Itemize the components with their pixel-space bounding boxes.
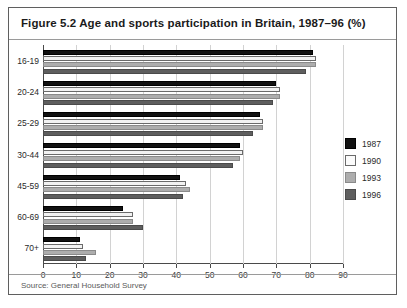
y-tick-label: 25-29 [17, 118, 39, 128]
bar [43, 187, 190, 192]
bar [43, 225, 143, 230]
y-tick-label: 60-69 [17, 212, 39, 222]
x-tick [243, 264, 244, 268]
legend-item[interactable]: 1990 [345, 153, 397, 168]
bar [43, 125, 263, 130]
figure-container: Figure 5.2 Age and sports participation … [8, 7, 397, 295]
x-tick-label: 60 [238, 270, 247, 280]
y-tick-label: 16-19 [17, 56, 39, 66]
x-tick-label: 80 [305, 270, 314, 280]
x-tick-label: 20 [105, 270, 114, 280]
legend-swatch-icon [345, 172, 356, 183]
bar [43, 112, 260, 117]
bar [43, 250, 96, 255]
plot-area: 0102030405060708090 [43, 45, 343, 264]
x-tick [76, 264, 77, 268]
gridline [276, 45, 277, 264]
bar [43, 194, 183, 199]
bar [43, 87, 280, 92]
legend-label: 1987 [362, 139, 381, 149]
bar [43, 50, 313, 55]
x-tick [43, 264, 44, 268]
bar [43, 62, 316, 67]
legend-item[interactable]: 1996 [345, 187, 397, 202]
y-axis-labels: 16-1920-2425-2930-4445-5960-6970+ [9, 45, 39, 264]
legend-label: 1990 [362, 156, 381, 166]
x-tick [276, 264, 277, 268]
gridline [343, 45, 344, 264]
bar [43, 163, 233, 168]
x-tick-label: 10 [72, 270, 81, 280]
x-tick-label: 30 [138, 270, 147, 280]
chart-legend: 1987199019931996 [345, 136, 397, 204]
bar [43, 143, 240, 148]
x-tick-label: 70 [272, 270, 281, 280]
legend-item[interactable]: 1993 [345, 170, 397, 185]
source-note: Source: General Household Survey [21, 281, 147, 290]
legend-swatch-icon [345, 189, 356, 200]
x-tick-label: 40 [172, 270, 181, 280]
legend-label: 1993 [362, 173, 381, 183]
legend-item[interactable]: 1987 [345, 136, 397, 151]
bar [43, 206, 123, 211]
legend-swatch-icon [345, 138, 356, 149]
bar [43, 131, 253, 136]
bar [43, 256, 86, 261]
gridline [243, 45, 244, 264]
bar [43, 81, 276, 86]
gridline [310, 45, 311, 264]
x-tick-label: 0 [41, 270, 46, 280]
bar [43, 237, 80, 242]
source-divider [9, 274, 396, 275]
bar [43, 181, 186, 186]
bar [43, 94, 280, 99]
x-tick [110, 264, 111, 268]
legend-swatch-icon [345, 155, 356, 166]
y-tick-label: 20-24 [17, 87, 39, 97]
bar [43, 69, 306, 74]
y-tick-label: 45-59 [17, 181, 39, 191]
figure-title: Figure 5.2 Age and sports participation … [21, 17, 366, 29]
bar [43, 150, 243, 155]
x-tick [343, 264, 344, 268]
x-tick-label: 50 [205, 270, 214, 280]
x-tick [143, 264, 144, 268]
y-tick-label: 70+ [25, 243, 39, 253]
legend-label: 1996 [362, 190, 381, 200]
bar [43, 119, 263, 124]
x-tick [310, 264, 311, 268]
bar [43, 100, 273, 105]
bar [43, 219, 133, 224]
bar [43, 212, 133, 217]
bar [43, 156, 240, 161]
title-divider [9, 39, 396, 40]
x-tick [176, 264, 177, 268]
x-tick-label: 90 [338, 270, 347, 280]
bar [43, 244, 83, 249]
x-tick [210, 264, 211, 268]
y-tick-label: 30-44 [17, 150, 39, 160]
bar [43, 56, 316, 61]
bar [43, 175, 180, 180]
